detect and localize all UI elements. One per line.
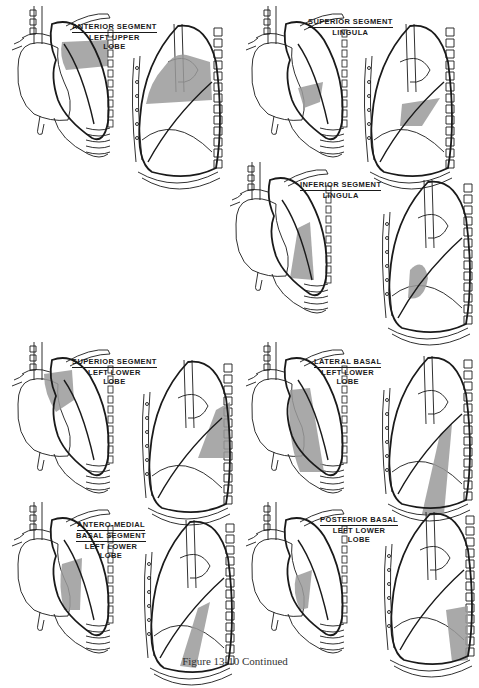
- chest-wall-segment: [108, 576, 113, 583]
- lung-outline: [285, 22, 343, 139]
- tracheal-ring: [264, 10, 270, 16]
- chest-wall-segment: [326, 226, 331, 233]
- sternal-mark: [368, 109, 371, 112]
- segment-title: BASAL SEGMENT: [76, 531, 146, 542]
- vertebra: [466, 582, 474, 590]
- rib: [86, 636, 110, 638]
- segment-title: SUPERIOR SEGMENT: [72, 357, 157, 368]
- chest-wall-segment: [108, 50, 113, 57]
- hilar-vessels: [400, 24, 430, 92]
- lateral-view: [360, 22, 460, 192]
- segment-shading: [146, 54, 212, 104]
- sternal-mark: [136, 67, 139, 70]
- rib: [86, 140, 110, 142]
- diaphragm-dome: [392, 461, 462, 484]
- chest-wall-segment: [342, 416, 347, 423]
- tracheal-ring: [30, 515, 36, 521]
- bronchial-branches: [246, 33, 284, 50]
- segment-title: POSTERIOR BASAL: [320, 515, 398, 526]
- chest-wall-segment: [108, 60, 113, 67]
- segment-shading: [60, 558, 82, 610]
- tracheal-ring: [30, 10, 36, 16]
- vertebra: [464, 250, 472, 258]
- chest-wall-segment: [326, 206, 331, 213]
- tracheal-ring: [264, 506, 270, 512]
- sternal-mark: [146, 445, 149, 448]
- chest-wall-segment: [342, 386, 347, 393]
- vertebra: [214, 39, 222, 47]
- vertebra: [464, 195, 472, 203]
- diaphragm-dome: [142, 129, 212, 152]
- vertebra: [226, 634, 234, 642]
- fissure: [298, 44, 328, 124]
- segment-shading: [44, 370, 74, 412]
- vertebra: [464, 470, 472, 478]
- sternal-mark: [136, 137, 139, 140]
- sternal-mark: [368, 67, 371, 70]
- chest-wall-segment: [342, 396, 347, 403]
- hilar-vessels: [180, 520, 210, 588]
- sternal-mark: [148, 633, 151, 636]
- sternal-mark: [136, 109, 139, 112]
- sternal-mark: [388, 555, 391, 558]
- sternal-mark: [386, 413, 389, 416]
- sternal-mark: [386, 399, 389, 402]
- segment-shading: [289, 388, 324, 472]
- rib: [320, 648, 344, 650]
- segment-shading: [298, 82, 323, 108]
- sternal-mark: [146, 417, 149, 420]
- chest-wall-segment: [342, 50, 347, 57]
- sternal-mark: [386, 293, 389, 296]
- segment-title: LATERAL BASAL: [314, 357, 381, 368]
- tracheal-ring: [264, 346, 270, 352]
- sternal-mark: [388, 597, 391, 600]
- chest-wall-segment: [326, 216, 331, 223]
- sternal-mark: [388, 625, 391, 628]
- sternal-mark: [136, 123, 139, 126]
- lobe-subtitle: LEFT LOWER: [320, 526, 398, 535]
- vertebra: [224, 463, 232, 471]
- vertebra: [224, 496, 232, 504]
- sternal-mark: [388, 611, 391, 614]
- segment-title: ANTERIOR SEGMENT: [72, 22, 157, 33]
- vertebra: [446, 138, 454, 146]
- rib: [320, 636, 344, 638]
- sternal-mark: [136, 95, 139, 98]
- rib: [320, 482, 344, 484]
- hilar-vessels: [418, 180, 448, 248]
- lobe-subtitle: LINGULA: [308, 28, 393, 37]
- vertebra: [464, 426, 472, 434]
- segment-label: LATERAL BASALLEFT LOWERLOBE: [314, 357, 381, 386]
- rib: [320, 140, 344, 142]
- chest-wall-segment: [342, 70, 347, 77]
- diaphragm-dome: [374, 129, 444, 152]
- rib: [320, 476, 344, 478]
- segment-label: SUPERIOR SEGMENTLINGULA: [308, 17, 393, 37]
- diaphragm-dome: [152, 465, 222, 488]
- lobe-subtitle: LEFT UPPER: [72, 33, 157, 42]
- sternal-mark: [148, 577, 151, 580]
- sternal-mark: [136, 81, 139, 84]
- vertebra: [446, 160, 454, 168]
- vertebra: [214, 138, 222, 146]
- sternal-mark: [148, 591, 151, 594]
- segment-shading: [198, 402, 230, 458]
- segment-label: ANTERO-MEDIALBASAL SEGMENTLEFT LOWERLOBE: [76, 520, 146, 560]
- lobe-subtitle: LOBE: [320, 535, 398, 544]
- vertebra: [466, 527, 474, 535]
- sternal-mark: [388, 569, 391, 572]
- lobe-subtitle: LINGULA: [300, 191, 381, 200]
- tracheal-ring: [248, 175, 254, 181]
- lobe-subtitle: LOBE: [76, 551, 146, 560]
- sternal-mark: [148, 619, 151, 622]
- rib: [86, 152, 110, 154]
- rib: [304, 296, 328, 298]
- chest-wall-segment: [342, 546, 347, 553]
- hilar-vessels: [178, 360, 208, 428]
- sternal-mark: [368, 137, 371, 140]
- vertebra: [466, 516, 474, 524]
- lower-ribs: [150, 668, 232, 685]
- segment-shading: [446, 606, 468, 662]
- sternal-mark: [386, 223, 389, 226]
- oblique-fissure: [398, 238, 462, 318]
